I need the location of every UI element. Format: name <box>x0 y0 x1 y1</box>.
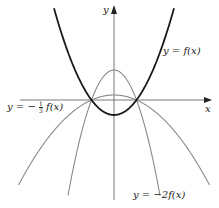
chart: y x y = f(x) y = − 1 3 f(x) y = −2f(x) <box>0 0 219 208</box>
label-neg-third-f: y = − 1 3 f(x) <box>7 101 63 114</box>
y-axis-label: y <box>103 5 109 15</box>
y-axis-arrow-icon <box>111 5 117 14</box>
label-f: y = f(x) <box>163 46 201 56</box>
fraction-one-third: 1 3 <box>39 101 43 114</box>
x-axis-label: x <box>205 104 211 114</box>
label-neg-2f: y = −2f(x) <box>133 190 185 200</box>
